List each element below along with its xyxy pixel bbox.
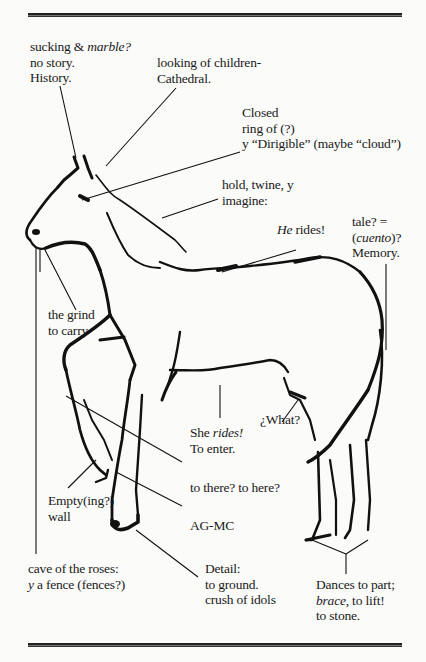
annotation-line: Memory. — [352, 245, 401, 261]
annotation-line: cave of the roses: — [28, 561, 125, 577]
annotation-line: crush of idols — [205, 592, 276, 608]
annotation-hold-twine: hold, twine, y imagine: — [222, 177, 293, 208]
annotation-grind: the grind to carry — [48, 307, 95, 338]
annotation-agmc: AG-MC — [190, 518, 234, 534]
annotation-text: , to lift! — [346, 593, 385, 608]
annotation-line: Closed — [242, 105, 401, 121]
annotation-cave-roses: cave of the roses: y a fence (fences?) — [28, 561, 125, 592]
annotation-line: Empty(ing?) — [48, 493, 114, 509]
annotation-he-rides: He rides! — [277, 222, 325, 238]
annotation-detail: Detail: to ground. crush of idols — [205, 561, 276, 608]
annotation-line: ring of (?) — [242, 121, 401, 137]
annotation-line: imagine: — [222, 193, 293, 209]
annotation-line: tale? = — [352, 214, 401, 230]
annotation-sucking-marble: sucking & marble? no story. History. — [30, 39, 131, 86]
annotation-italic: rides! — [213, 425, 243, 440]
annotation-text: rides! — [292, 222, 325, 237]
annotation-closed-ring: Closed ring of (?) y “Dirigible” (maybe … — [242, 105, 401, 152]
annotation-text: sucking & — [30, 39, 87, 54]
annotation-empty-wall: Empty(ing?) wall — [48, 493, 114, 524]
annotation-italic: He — [277, 222, 292, 237]
annotation-line: to stone. — [316, 608, 395, 624]
annotation-line: the grind — [48, 307, 95, 323]
annotation-what: ¿What? — [260, 412, 300, 428]
annotation-line: hold, twine, y — [222, 177, 293, 193]
annotation-line: History. — [30, 70, 131, 86]
annotation-line: Dances to part; — [316, 577, 395, 593]
annotation-to-there: to there? to here? — [190, 480, 280, 496]
annotation-italic: cuento — [356, 230, 391, 245]
annotation-text: a fence (fences?) — [34, 577, 125, 592]
annotation-text: She — [190, 425, 213, 440]
annotation-text: )? — [391, 230, 401, 245]
annotation-line: to there? to here? — [190, 480, 280, 496]
annotation-line: no story. — [30, 55, 131, 71]
annotation-line: Detail: — [205, 561, 276, 577]
annotation-line: AG-MC — [190, 518, 234, 534]
annotation-italic: marble? — [87, 39, 131, 54]
annotation-line: ¿What? — [260, 412, 300, 428]
annotation-line: to ground. — [205, 577, 276, 593]
annotation-line: to carry — [48, 323, 95, 339]
annotation-cathedral: looking of children- Cathedral. — [157, 55, 261, 86]
annotation-line: looking of children- — [157, 55, 261, 71]
annotation-line: wall — [48, 509, 114, 525]
annotation-tale-memory: tale? = (cuento)? Memory. — [352, 214, 401, 261]
annotation-line: Cathedral. — [157, 71, 261, 87]
annotation-dances: Dances to part; brace, to lift! to stone… — [316, 577, 395, 624]
annotation-line: To enter. — [190, 441, 243, 457]
annotation-she-rides: She rides! To enter. — [190, 425, 243, 456]
annotation-italic: brace — [316, 593, 346, 608]
annotation-line: y “Dirigible” (maybe “cloud”) — [242, 136, 401, 152]
